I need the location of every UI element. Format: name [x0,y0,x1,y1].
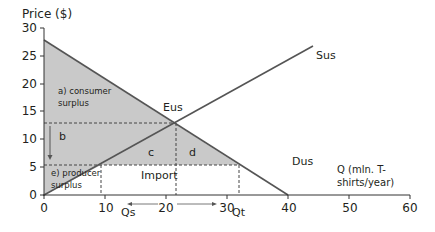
equilibrium-label: Eus [163,101,183,114]
y-tick-20: 20 [22,77,37,91]
y-tick-10: 10 [22,132,37,146]
y-tick-5: 5 [29,160,37,174]
x-ticks [44,195,410,199]
consumer-surplus-label-2: surplus [58,98,89,108]
demand-label: Dus [292,155,313,168]
x-tick-40: 40 [281,201,296,215]
y-tick-15: 15 [22,104,37,118]
y-tick-25: 25 [22,49,37,63]
x-tick-20: 20 [158,201,173,215]
x-tick-0: 0 [40,201,48,215]
y-tick-30: 30 [22,21,37,35]
y-ticks [40,28,44,195]
x-tick-50: 50 [342,201,357,215]
y-tick-0: 0 [29,188,37,202]
x-tick-60: 60 [402,201,417,215]
qt-arrowhead-icon [212,202,217,206]
qt-label: Qt [232,206,246,219]
qs-label: Qs [121,206,136,219]
x-axis-title-line1: Q (mln. T- [337,164,386,175]
producer-surplus-label-2: surplus [51,180,82,190]
supply-label: Sus [316,49,336,62]
area-d-label: d [189,146,196,159]
x-axis-title-line2: shirts/year) [337,177,394,188]
chart-canvas: 0 5 10 15 20 25 30 0 10 20 30 40 50 60 P… [0,0,435,232]
area-b-label: b [59,130,66,143]
x-tick-10: 10 [98,201,113,215]
area-c-label: c [148,146,154,159]
producer-surplus-label-1: e) producer [51,168,101,178]
import-label: Import [141,169,178,182]
consumer-surplus-label-1: a) consumer [58,86,112,96]
y-axis-title: Price ($) [22,7,72,21]
